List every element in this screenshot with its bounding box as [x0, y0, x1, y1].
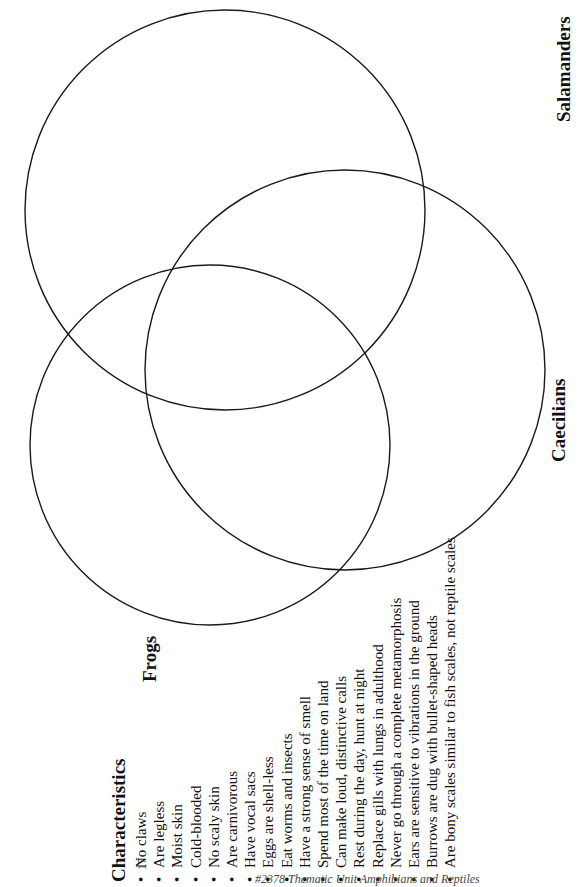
list-item: •No scaly skin	[205, 537, 223, 882]
list-item-text: Eggs are shell-less	[260, 756, 276, 868]
list-item-text: Never go through a complete metamorphosi…	[388, 598, 404, 868]
list-item: •Are bony scales similar to fish scales,…	[441, 537, 459, 882]
footer-source: #2378 Thematic Unit Amphibians and Repti…	[255, 872, 480, 887]
characteristics-title: Characteristics	[108, 537, 130, 882]
list-item: •Cold-blooded	[187, 537, 205, 882]
list-item-text: Are legless	[151, 801, 167, 868]
list-item-text: Can make loud, distinctive calls	[333, 676, 349, 868]
list-item-text: Ears are sensitive to vibrations in the …	[406, 600, 422, 868]
list-item-text: Are carnivorous	[224, 771, 240, 868]
list-item: •Moist skin	[168, 537, 186, 882]
list-item: •Never go through a complete metamorphos…	[387, 537, 405, 882]
list-item: •Are legless	[150, 537, 168, 882]
characteristics-block: Characteristics •No claws •Are legless •…	[108, 537, 460, 882]
list-item-text: Replace gills with lungs in adulthood	[370, 644, 386, 868]
list-item-text: Have a strong sense of smell	[297, 696, 313, 868]
list-item-text: Moist skin	[169, 804, 185, 868]
caecilians-label: Caecilians	[548, 379, 570, 462]
list-item: •Have a strong sense of smell	[296, 537, 314, 882]
salamanders-label: Salamanders	[553, 16, 575, 122]
list-item: •Burrows are dug with bullet-shaped head…	[423, 537, 441, 882]
list-item: •Replace gills with lungs in adulthood	[369, 537, 387, 882]
list-item: •Are carnivorous	[223, 537, 241, 882]
list-item-text: Cold-blooded	[188, 786, 204, 869]
list-item: •Have vocal sacs	[241, 537, 259, 882]
list-item-text: Burrows are dug with bullet-shaped heads	[424, 615, 440, 868]
list-item-text: Spend most of the time on land	[315, 681, 331, 868]
list-item-text: Rest during the day, hunt at night	[351, 669, 367, 868]
list-item: •Ears are sensitive to vibrations in the…	[405, 537, 423, 882]
page-footer: 17 #2378 Thematic Unit Amphibians and Re…	[0, 868, 582, 885]
list-item-text: Eat worms and insects	[279, 733, 295, 868]
list-item: •Eat worms and insects	[278, 537, 296, 882]
characteristics-list: •No claws •Are legless •Moist skin •Cold…	[132, 537, 460, 882]
list-item: •Spend most of the time on land	[314, 537, 332, 882]
list-item: •No claws	[132, 537, 150, 882]
page-number: 17	[135, 858, 150, 870]
list-item: •Can make loud, distinctive calls	[332, 537, 350, 882]
list-item-text: Have vocal sacs	[242, 771, 258, 868]
list-item: •Rest during the day, hunt at night	[350, 537, 368, 882]
list-item-text: Are bony scales similar to fish scales, …	[442, 537, 458, 868]
list-item: •Eggs are shell-less	[259, 537, 277, 882]
list-item-text: No scaly skin	[206, 786, 222, 868]
